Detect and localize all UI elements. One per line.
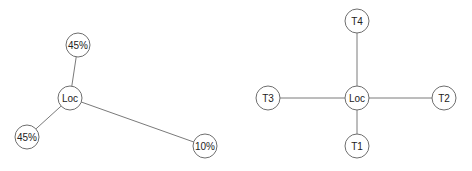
node-t3: T3 bbox=[256, 86, 280, 110]
probability-graph: Loc45%45%10% bbox=[15, 33, 217, 158]
node-label: T4 bbox=[351, 16, 363, 27]
diagram-canvas: Loc45%45%10%LocT4T3T2T1 bbox=[0, 0, 472, 171]
edge-loc-p3 bbox=[70, 98, 205, 146]
node-label: 45% bbox=[17, 132, 37, 143]
node-t4: T4 bbox=[345, 9, 369, 33]
node-t1: T1 bbox=[345, 134, 369, 158]
node-loc: Loc bbox=[345, 86, 369, 110]
node-label: T1 bbox=[351, 141, 363, 152]
node-loc: Loc bbox=[58, 86, 82, 110]
node-label: T2 bbox=[438, 93, 450, 104]
transition-graph: LocT4T3T2T1 bbox=[256, 9, 456, 158]
node-label: 45% bbox=[68, 40, 88, 51]
node-p2: 45% bbox=[15, 125, 39, 149]
node-t2: T2 bbox=[432, 86, 456, 110]
node-label: Loc bbox=[62, 93, 78, 104]
node-label: Loc bbox=[349, 93, 365, 104]
node-label: T3 bbox=[262, 93, 274, 104]
node-p3: 10% bbox=[193, 134, 217, 158]
node-p1: 45% bbox=[66, 33, 90, 57]
node-label: 10% bbox=[195, 141, 215, 152]
